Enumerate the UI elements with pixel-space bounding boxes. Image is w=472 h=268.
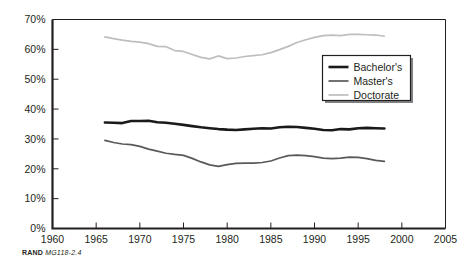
x-tick-label: 2000 bbox=[390, 233, 414, 245]
x-tick-label: 1975 bbox=[172, 233, 196, 245]
y-tick-label: 70% bbox=[24, 13, 45, 25]
chart-legend: Bachelor'sMaster'sDoctorate bbox=[323, 56, 414, 104]
x-tick-label: 1990 bbox=[303, 233, 327, 245]
source-note-prefix: RAND bbox=[22, 249, 43, 256]
series-line-bachelor-s bbox=[105, 121, 384, 131]
x-tick-label: 2005 bbox=[434, 233, 458, 245]
x-axis: 1960196519701975198019851990199520002005 bbox=[41, 223, 458, 245]
y-tick-label: 30% bbox=[24, 133, 45, 145]
legend-label-0: Bachelor's bbox=[354, 61, 403, 73]
y-tick-label: 50% bbox=[24, 73, 45, 85]
y-tick-label: 20% bbox=[24, 163, 45, 175]
y-tick-label: 40% bbox=[24, 103, 45, 115]
series-line-master-s bbox=[105, 140, 384, 166]
source-note: RAND MG118-2.4 bbox=[22, 249, 82, 256]
line-chart: 0%10%20%30%40%50%60%70% 1960196519701975… bbox=[0, 0, 472, 268]
y-tick-label: 10% bbox=[24, 192, 45, 204]
y-tick-label: 60% bbox=[24, 43, 45, 55]
x-tick-label: 1970 bbox=[128, 233, 152, 245]
legend-label-2: Doctorate bbox=[354, 89, 400, 101]
source-note-id: MG118-2.4 bbox=[45, 249, 81, 256]
legend-label-1: Master's bbox=[354, 75, 393, 87]
x-tick-label: 1985 bbox=[259, 233, 283, 245]
x-tick-label: 1980 bbox=[215, 233, 239, 245]
x-tick-label: 1965 bbox=[84, 233, 108, 245]
figure-container: 0%10%20%30%40%50%60%70% 1960196519701975… bbox=[0, 0, 472, 268]
x-tick-label: 1960 bbox=[41, 233, 65, 245]
x-tick-label: 1995 bbox=[346, 233, 370, 245]
